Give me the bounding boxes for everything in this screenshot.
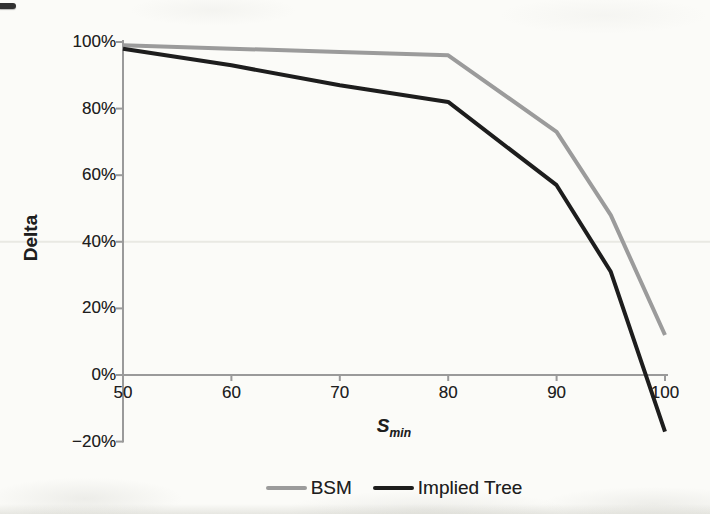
x-axis-title: Smin (377, 415, 412, 440)
y-tick-label: 80% (56, 99, 116, 119)
legend-item-implied-tree: Implied Tree (373, 477, 523, 499)
legend-label-bsm: BSM (311, 477, 352, 499)
legend-label-implied-tree: Implied Tree (418, 477, 523, 499)
x-tick-label: 60 (201, 383, 261, 403)
y-tick-label: 60% (56, 165, 116, 185)
x-tick-label: 90 (527, 383, 587, 403)
y-tick-label: 0% (56, 365, 116, 385)
y-tick-label: 100% (56, 32, 116, 52)
y-tick-label: −20% (56, 432, 116, 452)
y-axis-title: Delta (20, 215, 42, 261)
legend-item-bsm: BSM (266, 477, 352, 499)
x-axis-title-subscript: min (389, 426, 411, 440)
scanned-delta-chart: Delta Smin BSM Implied Tree 100%80%60%40… (0, 0, 710, 514)
x-tick-label: 100 (635, 383, 695, 403)
series-line-bsm (123, 45, 665, 335)
y-tick-label: 20% (56, 298, 116, 318)
x-axis-title-symbol: S (377, 415, 390, 436)
x-tick-label: 70 (310, 383, 370, 403)
bsm-line-swatch-icon (266, 486, 307, 490)
x-tick-label: 50 (93, 383, 153, 403)
scan-artifact-icon (0, 3, 16, 9)
y-tick-label: 40% (56, 232, 116, 252)
x-tick-label: 80 (418, 383, 478, 403)
implied-tree-line-swatch-icon (373, 486, 414, 490)
legend: BSM Implied Tree (123, 476, 665, 500)
